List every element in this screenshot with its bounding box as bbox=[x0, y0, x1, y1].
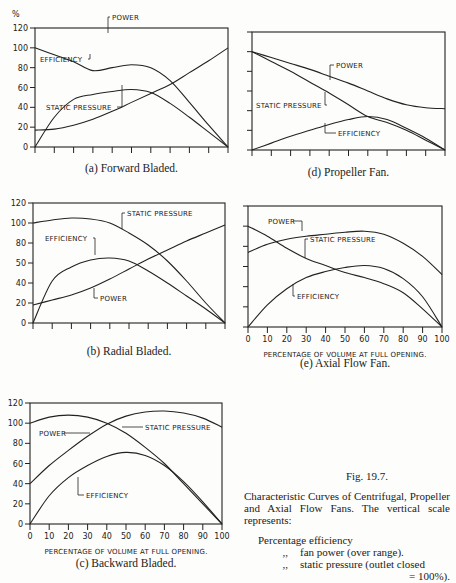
chart-forward-bladed: 020406080100120%STATIC PRESSUREEFFICIENC… bbox=[12, 10, 228, 175]
chart-caption: (b) Radial Bladed. bbox=[87, 345, 172, 358]
chart-radial-bladed: 020405080100120STATIC PRESSUREEFFICIENCY… bbox=[11, 199, 225, 358]
legend-line-pressure: ,,static pressure (outlet closed bbox=[244, 558, 450, 570]
x-tick-label: 70 bbox=[159, 532, 169, 541]
y-tick-label: 100 bbox=[8, 419, 23, 428]
y-tick-label: 60 bbox=[18, 84, 28, 93]
efficiency-curve bbox=[33, 258, 225, 323]
y-tick-label: 40 bbox=[16, 279, 26, 288]
y-tick-label: 50 bbox=[16, 259, 26, 268]
x-tick-label: 80 bbox=[398, 335, 408, 344]
x-tick-label: 80 bbox=[179, 532, 189, 541]
x-axis-title: PERCENTAGE OF VOLUME AT FULL OPENING. bbox=[44, 548, 207, 556]
static-pressure-label: STATIC PRESSURE bbox=[145, 424, 211, 432]
y-tick-label: 100 bbox=[13, 44, 28, 53]
x-tick-label: 0 bbox=[27, 532, 32, 541]
y-tick-label: 0 bbox=[23, 143, 28, 152]
y-tick-label: 120 bbox=[13, 24, 28, 33]
efficiency-curve bbox=[35, 89, 228, 147]
chart-caption: (e) Axial Flow Fan. bbox=[300, 357, 390, 370]
x-tick-label: 90 bbox=[198, 532, 208, 541]
x-tick-label: 60 bbox=[140, 532, 150, 541]
efficiency-curve bbox=[248, 265, 442, 327]
static-pressure-curve bbox=[33, 218, 225, 323]
y-tick-label: 100 bbox=[11, 219, 26, 228]
y-tick-label: 20 bbox=[16, 299, 26, 308]
plot-frame bbox=[35, 28, 228, 147]
plot-frame bbox=[33, 203, 225, 323]
x-tick-label: 70 bbox=[379, 335, 389, 344]
y-tick-label: 40 bbox=[13, 480, 23, 489]
x-tick-label: 0 bbox=[245, 335, 250, 344]
figure-caption: Fig. 19.7. Characteristic Curves of Cent… bbox=[244, 470, 450, 582]
efficiency-label: EFFICIENCY bbox=[338, 130, 381, 138]
chart-axial-flow-fan: 0102030405060708090100PERCENTAGE OF VOLU… bbox=[243, 206, 450, 370]
efficiency-label: EFFICIENCY bbox=[40, 56, 83, 64]
figure-number: Fig. 19.7. bbox=[284, 470, 450, 482]
chart-caption: (c) Backward Bladed. bbox=[76, 557, 177, 570]
x-tick-label: 100 bbox=[434, 335, 449, 344]
power-label: POWER bbox=[336, 62, 363, 70]
y-tick-label: 80 bbox=[16, 239, 26, 248]
x-tick-label: 50 bbox=[121, 532, 131, 541]
power-label: POWER bbox=[112, 14, 139, 22]
power-label: POWER bbox=[39, 430, 66, 438]
static-pressure-label: STATIC PRESSURE bbox=[310, 236, 376, 244]
legend-line-power: ,,fan power (over range). bbox=[244, 546, 450, 558]
legend-line-efficiency: Percentage efficiency bbox=[244, 534, 450, 546]
x-tick-label: 10 bbox=[262, 335, 272, 344]
efficiency-label: EFFICIENCY bbox=[86, 492, 129, 500]
x-tick-label: 30 bbox=[83, 532, 93, 541]
y-tick-label: 120 bbox=[8, 399, 23, 408]
chart-caption: (d) Propeller Fan. bbox=[308, 166, 390, 179]
y-tick-label: 20 bbox=[13, 500, 23, 509]
figure-description: Characteristic Curves of Centrifugal, Pr… bbox=[244, 490, 450, 526]
y-tick-label: 120 bbox=[11, 199, 26, 208]
y-tick-label: 20 bbox=[18, 123, 28, 132]
power-curve bbox=[252, 52, 445, 109]
plot-frame bbox=[30, 403, 222, 524]
power-label: POWER bbox=[100, 295, 127, 303]
x-tick-label: 100 bbox=[214, 532, 229, 541]
y-unit-label: % bbox=[12, 10, 20, 19]
x-tick-label: 20 bbox=[63, 532, 73, 541]
power-curve bbox=[30, 411, 222, 484]
y-tick-label: 80 bbox=[18, 64, 28, 73]
y-tick-label: 80 bbox=[13, 439, 23, 448]
y-tick-label: 40 bbox=[18, 103, 28, 112]
y-tick-label: 0 bbox=[21, 319, 26, 328]
x-tick-label: 60 bbox=[359, 335, 369, 344]
static-pressure-label: STATIC PRESSURE bbox=[256, 102, 322, 110]
x-tick-label: 30 bbox=[301, 335, 311, 344]
y-tick-label: 60 bbox=[13, 460, 23, 469]
efficiency-label: EFFICIENCY bbox=[45, 235, 88, 243]
efficiency-label: EFFICIENCY bbox=[297, 293, 340, 301]
power-label: POWER bbox=[268, 218, 295, 226]
chart-caption: (a) Forward Bladed. bbox=[85, 162, 178, 175]
x-tick-label: 50 bbox=[340, 335, 350, 344]
chart-backward-bladed: 0204060801001200102030405060708090100PER… bbox=[8, 399, 230, 570]
x-tick-label: 40 bbox=[321, 335, 331, 344]
x-tick-label: 10 bbox=[44, 532, 54, 541]
legend-line-pressure-cont: = 100%). bbox=[244, 570, 450, 582]
y-tick-label: 0 bbox=[18, 520, 23, 529]
x-tick-label: 20 bbox=[282, 335, 292, 344]
static-pressure-label: STATIC PRESSURE bbox=[46, 104, 112, 112]
static-pressure-label: STATIC PRESSURE bbox=[127, 210, 193, 218]
efficiency-curve bbox=[30, 452, 222, 524]
chart-propeller-fan: POWERSTATIC PRESSUREEFFICIENCY(d) Propel… bbox=[247, 32, 445, 179]
x-tick-label: 40 bbox=[102, 532, 112, 541]
x-tick-label: 90 bbox=[418, 335, 428, 344]
